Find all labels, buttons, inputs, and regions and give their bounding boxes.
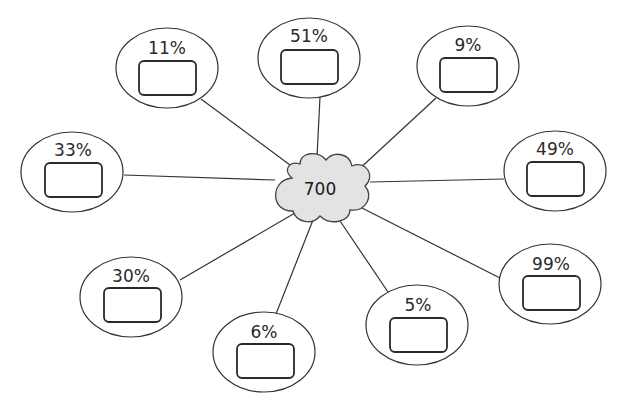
answer-box[interactable] bbox=[139, 61, 196, 95]
connector-6 bbox=[276, 220, 313, 314]
connector-99 bbox=[358, 206, 500, 278]
answer-box[interactable] bbox=[281, 50, 338, 84]
node-label: 6% bbox=[251, 322, 278, 342]
connector-51 bbox=[317, 97, 320, 157]
answer-box[interactable] bbox=[523, 276, 580, 310]
connector-33 bbox=[124, 175, 275, 180]
node-label: 99% bbox=[532, 254, 570, 274]
center-cloud: 700 bbox=[276, 154, 370, 222]
node-49-percent: 49% bbox=[504, 131, 606, 211]
connector-30 bbox=[180, 213, 295, 280]
answer-box[interactable] bbox=[237, 344, 294, 378]
node-11-percent: 11% bbox=[116, 28, 218, 108]
node-label: 33% bbox=[54, 140, 92, 160]
node-5-percent: 5% bbox=[366, 285, 468, 365]
percentage-spider-diagram: 700 11% 51% 9% 33% 49% 30% 99% bbox=[0, 0, 623, 410]
answer-box[interactable] bbox=[104, 288, 161, 322]
connector-11 bbox=[201, 99, 290, 165]
node-9-percent: 9% bbox=[417, 26, 519, 106]
node-33-percent: 33% bbox=[21, 132, 123, 212]
answer-box[interactable] bbox=[390, 318, 447, 352]
node-label: 49% bbox=[536, 139, 574, 159]
node-99-percent: 99% bbox=[499, 244, 601, 324]
answer-box[interactable] bbox=[440, 58, 497, 92]
connector-5 bbox=[336, 215, 388, 292]
node-label: 51% bbox=[290, 26, 328, 46]
node-label: 11% bbox=[148, 38, 186, 58]
node-6-percent: 6% bbox=[213, 312, 315, 392]
connector-9 bbox=[356, 98, 436, 172]
node-label: 5% bbox=[405, 295, 432, 315]
node-51-percent: 51% bbox=[258, 18, 360, 98]
node-label: 30% bbox=[112, 266, 150, 286]
answer-box[interactable] bbox=[527, 162, 584, 196]
connector-49 bbox=[370, 179, 504, 182]
node-label: 9% bbox=[455, 35, 482, 55]
answer-box[interactable] bbox=[45, 163, 102, 197]
node-30-percent: 30% bbox=[80, 257, 182, 337]
center-value: 700 bbox=[304, 179, 336, 199]
